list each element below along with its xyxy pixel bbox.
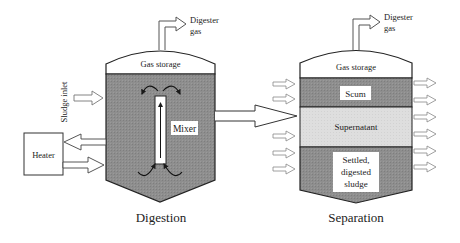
digester-gas-label-line2: gas xyxy=(384,23,395,33)
gas-storage-label: Gas storage xyxy=(336,62,376,72)
separation-tank: Gas storage Digester gas Scum Supernatan… xyxy=(300,12,413,225)
outflow-arrow-icon xyxy=(414,112,436,122)
settled-sludge-label-line1: Settled, xyxy=(342,155,369,165)
sludge-inlet-label: Sludge inlet xyxy=(59,81,69,122)
scum-label: Scum xyxy=(345,89,366,99)
heater-return-arrow-icon xyxy=(64,134,106,150)
process-diagram: Mixer Gas storage Digester gas Digestion… xyxy=(0,0,460,243)
settled-sludge-label-line2: digested xyxy=(341,167,371,177)
heater-label: Heater xyxy=(32,150,55,160)
inflow-arrow-icon xyxy=(273,79,295,89)
inflow-arrow-icon xyxy=(273,94,295,104)
gas-outlet-pipe-icon xyxy=(353,15,380,50)
separation-inflow-arrows xyxy=(273,79,295,174)
mixer-label: Mixer xyxy=(173,124,197,134)
separation-outflow-arrows xyxy=(414,78,436,172)
digester-gas-label-line2: gas xyxy=(190,26,201,36)
heater: Heater xyxy=(24,133,106,175)
sludge-inlet-arrow-icon xyxy=(74,91,103,105)
inflow-arrow-icon xyxy=(273,164,295,174)
settled-sludge-label-line3: sludge xyxy=(344,179,368,189)
outflow-arrow-icon xyxy=(414,162,436,172)
gas-outlet-pipe-icon xyxy=(159,17,186,50)
digester-gas-label-line1: Digester xyxy=(384,12,413,22)
sludge-inlet: Sludge inlet xyxy=(59,81,103,122)
outflow-arrow-icon xyxy=(414,95,436,105)
transfer-arrow-icon xyxy=(215,105,297,127)
inflow-arrow-icon xyxy=(273,131,295,141)
digestion-tank: Mixer Gas storage Digester gas Digestion xyxy=(106,15,219,225)
gas-storage-label: Gas storage xyxy=(141,59,181,69)
outflow-arrow-icon xyxy=(414,146,436,156)
digestion-title: Digestion xyxy=(136,210,187,225)
supernatant-label: Supernatant xyxy=(335,122,378,132)
separation-title: Separation xyxy=(328,210,384,225)
inflow-arrow-icon xyxy=(273,148,295,158)
heater-supply-arrow-icon xyxy=(63,157,104,173)
outflow-arrow-icon xyxy=(414,129,436,139)
outflow-arrow-icon xyxy=(414,78,436,88)
digester-gas-label-line1: Digester xyxy=(190,15,219,25)
